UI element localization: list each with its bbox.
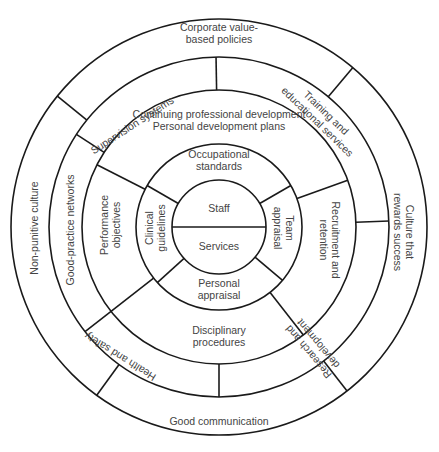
core-label-services: Services [199,240,239,252]
segment-label-culture-that-rewards-success: Culture thatrewards success [392,193,417,271]
nested-circle-diagram: Staff Services OccupationalstandardsTeam… [0,0,439,452]
ring-3-divider [111,278,154,311]
ring-3-divider [297,180,348,198]
segment-label-personal-appraisal: Personalappraisal [198,277,241,302]
segment-label-recruitment-and-retention: Recruitment andretention [318,201,343,278]
ring-2-divider [157,258,184,282]
ring-5-divider [57,96,87,120]
core-label-staff: Staff [208,202,229,214]
ring-5-divider [97,365,119,396]
ring-5-divider [328,68,352,97]
ring-2-divider [147,186,178,204]
ring-3-divider [97,165,145,190]
segment-label-performance-objectives: Performanceobjectives [98,195,123,255]
segment-label-health-and-safety: Health and safety [82,330,158,384]
segment-label-good-communication: Good communication [169,415,268,427]
segment-label-occupational-standards: Occupationalstandards [188,148,249,173]
segment-label-good-practice-networks: Good-practice networks [64,175,76,286]
segment-labels: OccupationalstandardsTeamappraisalPerson… [28,21,416,427]
ring-4-divider [356,221,389,222]
segment-label-clinical-guidelines: Clinicalguidelines [143,204,168,251]
segment-label-corporate-value-based-policies: Corporate value-based policies [180,21,259,46]
segment-label-disciplinary-procedures: Disciplinaryprocedures [192,324,246,349]
ring-4-divider [216,57,217,90]
segment-label-non-punitive-culture: Non-punitive culture [28,181,40,275]
ring-4-divider [85,311,111,331]
segment-label-team-appraisal: Teamappraisal [272,207,297,250]
segment-label-research-and-development: Research anddevelopment [283,315,344,381]
ring-2-divider [260,186,291,204]
ring-2-divider [255,257,283,280]
